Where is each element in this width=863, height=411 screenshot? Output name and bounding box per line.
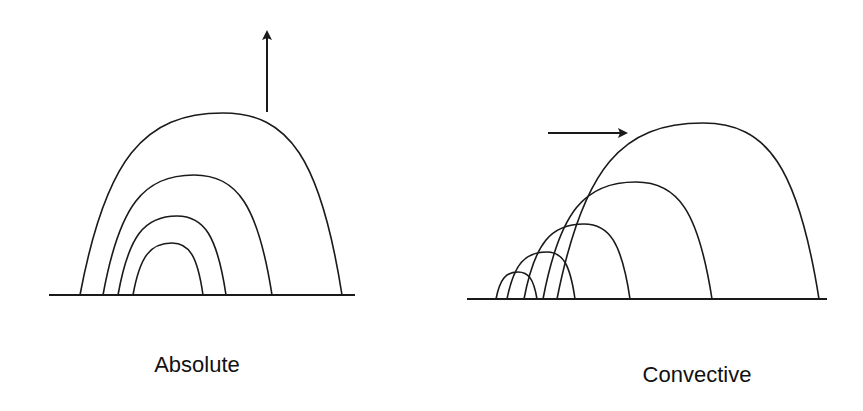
convective-label: Convective bbox=[643, 362, 752, 388]
wave-arch bbox=[557, 123, 819, 299]
wave-arch bbox=[80, 113, 342, 295]
wave-arch bbox=[507, 252, 575, 299]
absolute-label: Absolute bbox=[154, 352, 240, 378]
wave-arch bbox=[103, 175, 272, 295]
convective-panel bbox=[467, 123, 827, 299]
wave-arch bbox=[133, 243, 203, 295]
wave-arch bbox=[524, 224, 630, 299]
wave-arch bbox=[496, 272, 537, 299]
absolute-panel bbox=[49, 35, 355, 295]
wave-arch bbox=[118, 216, 226, 295]
instability-diagram bbox=[0, 0, 863, 411]
